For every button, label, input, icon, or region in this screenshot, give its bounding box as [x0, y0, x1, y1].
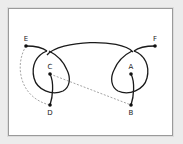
edge-a-b — [131, 74, 134, 105]
node-b — [129, 103, 133, 107]
label-d: D — [47, 109, 52, 117]
edge-e-to-loop-left — [26, 46, 47, 51]
label-a: A — [129, 63, 134, 71]
loop-left — [33, 51, 69, 93]
edge-e-d-dashed — [20, 46, 50, 105]
node-d — [48, 103, 52, 107]
knot-diagram: A B C D E F — [0, 0, 183, 144]
node-a — [129, 72, 133, 76]
loop-right — [112, 51, 148, 93]
edge-c-d — [50, 74, 53, 105]
node-c — [48, 72, 52, 76]
edge-main-arc — [47, 43, 133, 55]
edge-f-to-loop-right — [134, 46, 155, 51]
label-b: B — [129, 109, 134, 117]
label-e: E — [24, 35, 28, 43]
node-f — [153, 44, 157, 48]
label-f: F — [153, 35, 157, 43]
edge-c-b-dashed — [50, 74, 131, 105]
label-c: C — [48, 63, 53, 71]
node-e — [24, 44, 28, 48]
